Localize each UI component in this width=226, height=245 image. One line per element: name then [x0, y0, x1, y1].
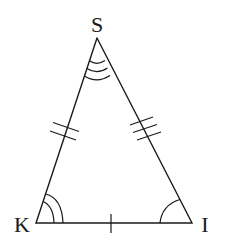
angle-marks-k	[43, 194, 63, 223]
angle-marks-i	[160, 200, 180, 224]
triangle-outline	[36, 38, 192, 223]
triangle-diagram: S K I	[0, 0, 226, 245]
vertex-label-k: K	[14, 212, 30, 237]
vertex-label-s: S	[91, 12, 103, 37]
side-ticks-si	[130, 117, 161, 140]
vertex-label-i: I	[201, 212, 208, 237]
